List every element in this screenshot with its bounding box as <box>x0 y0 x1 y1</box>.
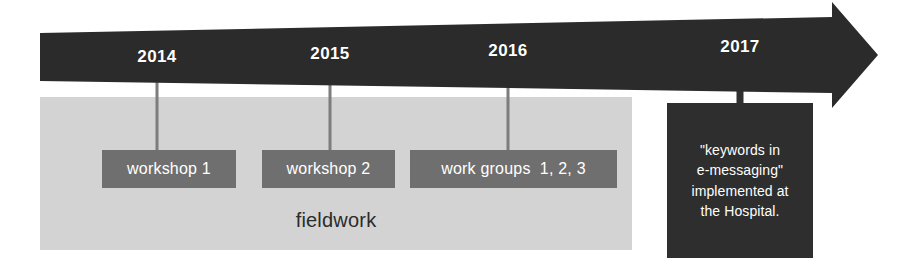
year-label-2014: 2014 <box>137 47 176 67</box>
stem-workshop-2 <box>329 76 332 152</box>
event-chip-label: workshop 1 <box>127 160 211 178</box>
year-label-2016: 2016 <box>488 41 527 61</box>
event-chip-workshop-1: workshop 1 <box>102 150 236 188</box>
fieldwork-label: fieldwork <box>40 209 632 232</box>
event-chip-workshop-2: workshop 2 <box>262 150 395 188</box>
stem-outcome <box>737 84 744 105</box>
stem-work-groups <box>507 74 510 152</box>
timeline-figure: fieldwork workshop 1 workshop 2 work gro… <box>0 0 909 266</box>
outcome-box: "keywords in e-messaging" implemented at… <box>667 103 813 258</box>
stem-workshop-1 <box>156 78 159 152</box>
event-chip-label: workshop 2 <box>287 160 371 178</box>
year-label-2015: 2015 <box>310 44 349 64</box>
outcome-text: "keywords in e-messaging" implemented at… <box>691 140 788 221</box>
year-label-2017: 2017 <box>720 37 759 57</box>
event-chip-label: work groups 1, 2, 3 <box>441 160 586 178</box>
event-chip-work-groups: work groups 1, 2, 3 <box>410 150 617 188</box>
